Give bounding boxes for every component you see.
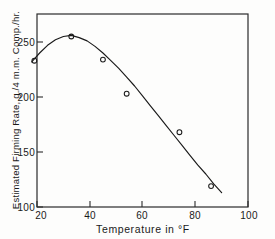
x-tick-label-20: 20 (35, 210, 47, 221)
y-axis-ticks (37, 42, 43, 207)
chart-figure: 100 150 200 250 20 40 60 80 100 Temperat… (0, 0, 275, 239)
y-axis-title: Estimated Firming Rate, g./4 m.m. Comp./… (10, 11, 21, 209)
plot-frame (37, 14, 248, 207)
x-tick-label-100: 100 (240, 210, 258, 221)
x-axis-ticks (37, 201, 248, 207)
x-tick-label-60: 60 (136, 210, 148, 221)
data-point-1 (69, 34, 74, 39)
x-axis-title: Temperature in °F (96, 223, 190, 235)
fit-curve (32, 35, 222, 192)
x-tick-label-40: 40 (84, 210, 96, 221)
x-tick-label-80: 80 (189, 210, 201, 221)
data-point-3 (124, 91, 129, 96)
data-point-2 (101, 57, 106, 62)
x-tick-labels: 20 40 60 80 100 (35, 210, 258, 221)
data-point-markers (32, 34, 214, 188)
axes-border (37, 14, 248, 207)
data-point-5 (209, 184, 214, 189)
data-point-4 (177, 130, 182, 135)
chart-canvas: 100 150 200 250 20 40 60 80 100 Temperat… (0, 0, 275, 239)
